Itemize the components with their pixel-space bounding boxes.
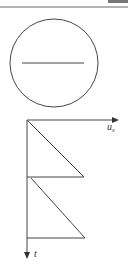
x-axis-label: ux: [107, 121, 115, 133]
t-axis-arrow-icon: [24, 252, 30, 259]
sawtooth-diagonal-1: [27, 120, 84, 177]
t-axis-label: t: [34, 248, 37, 259]
top-block: [108, 0, 128, 3]
x-axis-label-sub: x: [112, 127, 115, 133]
diagram-canvas: [0, 0, 128, 272]
sawtooth-diagonal-2: [31, 178, 85, 238]
